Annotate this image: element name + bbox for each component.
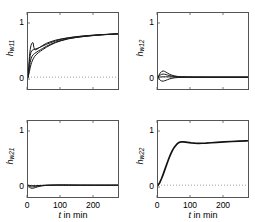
ylabel-hw12-main: h: [135, 51, 145, 56]
xlabel-hw21: t in min: [27, 210, 119, 220]
ylabel-hw21-main: h: [5, 159, 15, 164]
curve-hw21-near-zero: [28, 185, 119, 186]
plotbox-hw22: [157, 120, 249, 198]
curve-hw11-lowest: [28, 34, 119, 77]
figure-panel-grid: hw11 1 0 hw12: [0, 0, 255, 222]
curve-hw11-overshoot: [28, 34, 119, 78]
plot-svg-hw12: [158, 13, 249, 90]
xlabel-hw22-rest: in min: [191, 210, 218, 220]
xlabel-hw21-rest: in min: [61, 210, 88, 220]
panel-hw21: hw21 1 0 0 100 200 t in min: [0, 111, 128, 222]
xtick-hw22-100: 100: [178, 200, 202, 210]
plotbox-hw11: [27, 12, 119, 90]
xtick-hw22-0: 0: [150, 200, 164, 210]
plotbox-hw12: [157, 12, 249, 90]
curve-hw11-low: [28, 34, 119, 77]
ytick-hw12-1: 1: [142, 17, 154, 27]
plot-svg-hw21: [28, 121, 119, 198]
curve-hw22-main: [158, 141, 249, 186]
ytick-hw21-0: 0: [12, 181, 24, 191]
curve-hw12-negative-dip: [158, 77, 249, 81]
plot-svg-hw11: [28, 13, 119, 90]
ytick-hw11-0: 0: [12, 73, 24, 83]
ylabel-hw21: hw21: [5, 136, 15, 176]
xlabel-hw22: t in min: [157, 210, 249, 220]
ylabel-hw11: hw11: [5, 28, 15, 68]
ytick-hw22-0: 0: [142, 181, 154, 191]
ylabel-hw22-main: h: [135, 159, 145, 164]
ylabel-hw11-sub: w11: [8, 40, 15, 51]
ytick-hw11-1: 1: [12, 17, 24, 27]
ytick-hw21-1: 1: [12, 125, 24, 135]
plot-svg-hw22: [158, 121, 249, 198]
panel-hw11: hw11 1 0: [0, 0, 128, 111]
ylabel-hw22-sub: w22: [138, 148, 145, 160]
ylabel-hw12-sub: w12: [138, 40, 145, 52]
ytick-hw12-0: 0: [142, 73, 154, 83]
xtick-hw22-200: 200: [211, 200, 235, 210]
ylabel-hw12: hw12: [135, 28, 145, 68]
xtick-hw21-0: 0: [20, 200, 34, 210]
plotbox-hw21: [27, 120, 119, 198]
xtick-hw21-200: 200: [81, 200, 105, 210]
ytick-hw22-1: 1: [142, 125, 154, 135]
panel-hw12: hw12 1 0: [128, 0, 255, 111]
ylabel-hw22: hw22: [135, 136, 145, 176]
panel-hw22: hw22 1 0 0 100 200 t in min: [128, 111, 255, 222]
xtick-hw21-100: 100: [48, 200, 72, 210]
ylabel-hw11-main: h: [5, 51, 15, 56]
curve-hw11-mid: [28, 34, 119, 77]
ylabel-hw21-sub: w21: [8, 148, 15, 160]
